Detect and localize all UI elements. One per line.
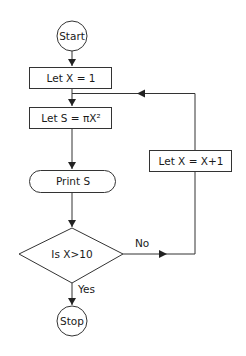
print-node-label: Print S [30,176,116,187]
init-node-label: Let X = 1 [30,73,112,84]
edge-decision-increment [123,171,195,254]
edge-label-no: No [135,238,149,249]
stop-node-label: Stop [57,316,87,327]
edge-label-yes: Yes [78,284,95,295]
decision-node-label: Is X>10 [40,249,104,260]
increment-node-label: Let X = X+1 [150,156,232,167]
compute-node-label: Let S = πX² [30,113,112,124]
start-node-label: Start [57,31,87,42]
